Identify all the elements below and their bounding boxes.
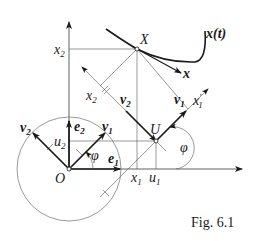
point-o <box>67 167 71 171</box>
label-x2-axis: x2 <box>53 42 65 59</box>
label-x2-proj: x2 <box>85 88 97 105</box>
rotation-diagram: x(t) X x x2 x2 v2 v1 x′1 U φ x1 u1 v2 e2… <box>0 0 253 241</box>
v1-vector-origin <box>69 133 105 169</box>
label-v2-lower: v2 <box>20 120 31 137</box>
point-x <box>135 47 139 51</box>
label-x1-prime: x′1 <box>192 92 203 110</box>
tick-v1-circle <box>76 149 82 155</box>
label-phi-upper: φ <box>180 140 188 155</box>
label-phi-lower: φ <box>91 148 99 163</box>
v1-vector-u <box>156 111 186 141</box>
label-v1-upper: v1 <box>174 92 185 109</box>
label-u1: u1 <box>149 170 161 187</box>
label-v2-upper: v2 <box>120 92 131 109</box>
label-tangent: x <box>182 66 190 81</box>
label-u: U <box>150 122 161 137</box>
point-u <box>154 139 158 143</box>
curve-x-t <box>106 29 205 62</box>
x-to-x2-prime <box>100 49 137 86</box>
label-curve: x(t) <box>205 26 226 42</box>
label-e2: e2 <box>74 119 85 136</box>
label-e1: e1 <box>108 151 119 168</box>
v2-vector-origin <box>33 133 69 169</box>
label-v1-lower: v1 <box>102 119 113 136</box>
label-x1: x1 <box>130 170 142 187</box>
label-o: O <box>55 171 65 186</box>
figure-caption: Fig. 6.1 <box>191 215 234 230</box>
label-x: X <box>139 32 149 47</box>
label-u2: u2 <box>54 134 66 151</box>
